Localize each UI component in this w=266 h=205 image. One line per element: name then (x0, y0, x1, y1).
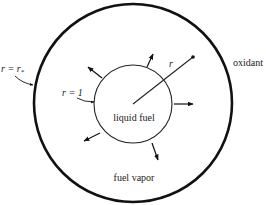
inner-boundary-pointer-icon (77, 98, 94, 102)
radius-endpoint-dot (191, 55, 195, 59)
arrow-top-icon (147, 54, 153, 67)
radius-indicator (133, 55, 195, 104)
outer-boundary-pointer-icon (15, 76, 33, 85)
arrow-lower-left-icon (84, 133, 100, 141)
outer-boundary-label: r = r* (1, 63, 25, 76)
inner-boundary-label: r = 1 (62, 87, 83, 98)
arrow-upper-left-icon (88, 67, 102, 78)
liquid-fuel-label: liquid fuel (113, 112, 155, 123)
radius-label: r (169, 58, 173, 69)
fuel-vapor-label: fuel vapor (114, 172, 155, 183)
oxidant-label: oxidant (233, 57, 263, 68)
droplet-combustion-diagram: r = r* r = 1 r oxidant liquid fuel fuel … (0, 0, 266, 205)
arrow-bottom-icon (152, 143, 158, 160)
